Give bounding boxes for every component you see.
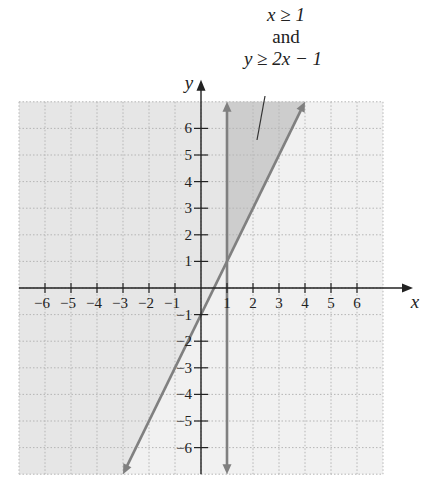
x-tick-label: 6 xyxy=(353,295,361,311)
y-tick-label: 4 xyxy=(185,174,193,190)
y-axis-arrow-icon xyxy=(197,80,206,91)
y-tick-label: −1 xyxy=(176,307,192,323)
annotation-line-3: y ≥ 2x − 1 xyxy=(220,48,346,70)
x-tick-label: −6 xyxy=(34,295,50,311)
x-tick-label: −2 xyxy=(138,295,154,311)
x-tick-label: 1 xyxy=(223,295,231,311)
y-tick-label: 2 xyxy=(185,227,193,243)
inequality-annotation: x ≥ 1 and y ≥ 2x − 1 xyxy=(226,4,346,70)
x-tick-label: −4 xyxy=(86,295,102,311)
y-tick-label: −2 xyxy=(176,333,192,349)
annotation-line-1: x ≥ 1 xyxy=(226,4,346,26)
y-tick-label: −3 xyxy=(176,360,192,376)
x-tick-label: 5 xyxy=(327,295,335,311)
inequality-graph: −6−5−4−3−2−1123456−6−5−4−3−2−1123456xy x… xyxy=(0,0,426,494)
y-tick-label: 6 xyxy=(185,120,193,136)
x-axis-label: x xyxy=(410,291,420,312)
coordinate-plane: −6−5−4−3−2−1123456−6−5−4−3−2−1123456xy xyxy=(0,0,426,494)
x-tick-label: 3 xyxy=(275,295,283,311)
y-axis-label: y xyxy=(183,72,194,93)
y-tick-label: 3 xyxy=(185,200,193,216)
y-tick-label: −6 xyxy=(176,440,192,456)
annotation-line-2: and xyxy=(226,26,346,48)
y-tick-label: 1 xyxy=(185,253,193,269)
x-tick-label: 2 xyxy=(249,295,257,311)
x-tick-label: 4 xyxy=(301,295,309,311)
y-tick-label: 5 xyxy=(185,147,193,163)
y-tick-label: −4 xyxy=(176,386,192,402)
x-tick-label: −5 xyxy=(60,295,76,311)
x-tick-label: −3 xyxy=(112,295,128,311)
y-tick-label: −5 xyxy=(176,413,192,429)
